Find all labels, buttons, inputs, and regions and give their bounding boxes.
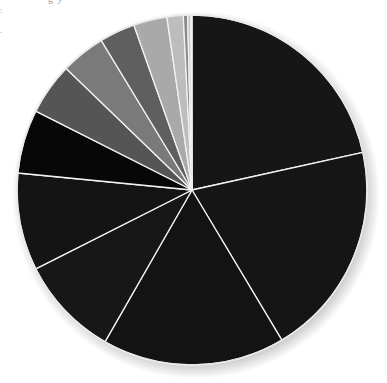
pie-chart — [0, 0, 387, 383]
pie-slices — [17, 15, 367, 365]
